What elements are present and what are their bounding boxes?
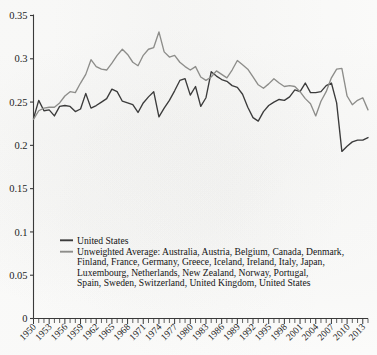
legend-label: United States (77, 235, 129, 246)
legend-label: Spain, Sweden, Switzerland, United Kingd… (77, 277, 311, 288)
legend-entry: Unweighted Average: Australia, Austria, … (60, 246, 344, 288)
legend-label: Unweighted Average: Australia, Austria, … (77, 246, 344, 257)
y-axis-tick-label: 0.35 (9, 10, 27, 21)
y-axis-tick-label: 0.2 (14, 140, 27, 151)
y-axis-tick-label: 0.05 (9, 270, 27, 281)
y-axis-tick-label: 0 (22, 313, 27, 324)
line-chart: 00.050.10.150.20.250.30.3519501953195619… (0, 0, 377, 355)
chart-page: 00.050.10.150.20.250.30.3519501953195619… (0, 0, 377, 355)
y-axis-tick-label: 0.15 (9, 183, 27, 194)
legend-label: Luxembourg, Netherlands, New Zealand, No… (77, 267, 309, 278)
y-axis-tick-label: 0.25 (9, 97, 27, 108)
y-axis-tick-label: 0.1 (14, 227, 27, 238)
legend-label: Finland, France, Germany, Greece, Icelan… (77, 256, 325, 267)
x-axis-tick-label: 2013 (347, 322, 368, 343)
y-axis-tick-label: 0.3 (14, 53, 27, 64)
legend-entry: United States (60, 235, 129, 246)
